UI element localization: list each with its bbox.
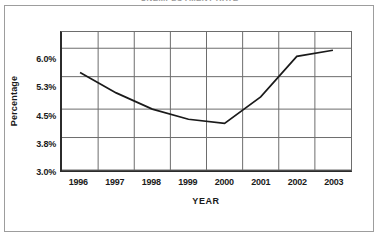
chart-title: UNEMPLOYMENT RATE bbox=[0, 0, 379, 3]
y-tick-label-4: 4.5% bbox=[20, 111, 56, 121]
y-axis-title: Percentage bbox=[9, 76, 19, 127]
x-tick-label-1999: 1999 bbox=[170, 175, 207, 191]
y-tick-label-2: 3.0% bbox=[20, 167, 56, 177]
y-axis-tick-labels: 6.0% 5.3% 4.5% 3.8% 3.0% bbox=[16, 0, 56, 237]
chart-figure: UNEMPLOYMENT RATE 6.0% 5.3% 4.5% 3.8% 3.… bbox=[0, 0, 379, 237]
y-tick-label-6: 6.0% bbox=[20, 54, 56, 64]
x-tick-label-2000: 2000 bbox=[206, 175, 243, 191]
plot-area bbox=[60, 31, 352, 172]
x-tick-label-2003: 2003 bbox=[316, 175, 353, 191]
x-tick-label-1996: 1996 bbox=[60, 175, 97, 191]
y-tick-label-3: 3.8% bbox=[20, 139, 56, 149]
y-tick-label-5: 5.3% bbox=[20, 82, 56, 92]
x-axis-title: YEAR bbox=[60, 196, 352, 206]
x-tick-label-2002: 2002 bbox=[279, 175, 316, 191]
vertical-gridlines bbox=[98, 32, 315, 170]
x-tick-label-2001: 2001 bbox=[243, 175, 280, 191]
x-tick-label-1997: 1997 bbox=[97, 175, 134, 191]
grid-and-series-layer bbox=[62, 32, 351, 170]
x-axis-tick-labels: 1996 1997 1998 1999 2000 2001 2002 2003 bbox=[60, 175, 352, 191]
x-tick-label-1998: 1998 bbox=[133, 175, 170, 191]
